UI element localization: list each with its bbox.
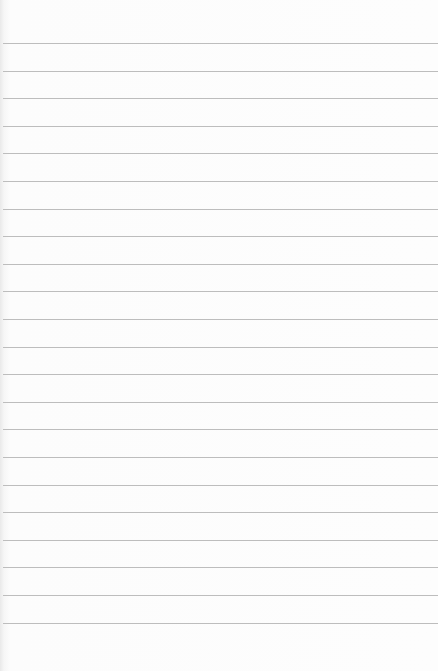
ruled-line xyxy=(3,347,438,348)
ruled-line xyxy=(3,595,438,596)
ruled-line xyxy=(3,236,438,237)
ruled-line xyxy=(3,485,438,486)
lined-paper-sheet xyxy=(0,0,438,671)
ruled-line xyxy=(3,98,438,99)
ruled-line xyxy=(3,429,438,430)
ruled-line xyxy=(3,457,438,458)
ruled-line xyxy=(3,623,438,624)
ruled-line xyxy=(3,126,438,127)
ruled-line xyxy=(3,43,438,44)
ruled-line xyxy=(3,181,438,182)
ruled-line xyxy=(3,374,438,375)
ruled-line xyxy=(3,512,438,513)
ruled-line xyxy=(3,319,438,320)
ruled-line xyxy=(3,209,438,210)
ruled-line xyxy=(3,264,438,265)
ruled-line xyxy=(3,540,438,541)
ruled-line xyxy=(3,153,438,154)
ruled-line xyxy=(3,71,438,72)
ruled-line xyxy=(3,567,438,568)
ruled-line xyxy=(3,402,438,403)
ruled-line xyxy=(3,291,438,292)
